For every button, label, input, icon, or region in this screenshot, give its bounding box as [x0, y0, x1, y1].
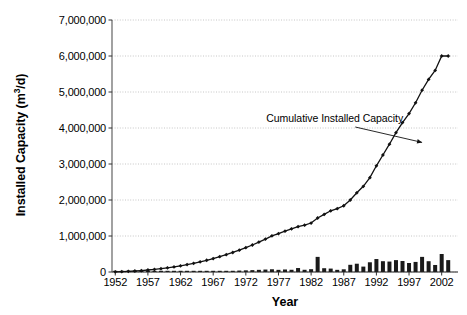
line-marker [120, 270, 124, 274]
line-marker [218, 255, 222, 259]
line-marker [446, 54, 450, 58]
axis-lines [112, 20, 458, 272]
x-axis-ticks [109, 20, 442, 276]
x-axis-tick-label: 1977 [267, 276, 291, 288]
x-axis-tick-label: 1982 [299, 276, 323, 288]
annotation-arrow [355, 127, 422, 143]
bar [361, 267, 365, 272]
bar [387, 262, 391, 272]
line-marker [211, 257, 215, 261]
x-axis-tick-label: 1967 [201, 276, 225, 288]
line-marker [244, 246, 248, 250]
bar [433, 265, 437, 272]
x-axis-tick-label: 1972 [234, 276, 258, 288]
x-axis-tick-label: 1962 [169, 276, 193, 288]
x-axis-tick-label: 1997 [397, 276, 421, 288]
line-marker [198, 260, 202, 264]
bar [414, 262, 418, 272]
bar [374, 259, 378, 272]
line-marker [303, 223, 307, 227]
line-marker [185, 263, 189, 267]
x-axis-tick-label: 1952 [103, 276, 127, 288]
bar-series [113, 254, 450, 272]
bar [427, 261, 431, 272]
chart-container: Installed Capacity (m3/d) 01,000,0002,00… [0, 0, 467, 315]
bar [316, 257, 320, 272]
chart-annotation-label: Cumulative Installed Capacity [266, 112, 403, 124]
bar [381, 261, 385, 272]
x-axis-tick-label: 1957 [136, 276, 160, 288]
line-marker [250, 243, 254, 247]
x-axis-title: Year [112, 295, 458, 309]
x-axis-tick-label: 1987 [332, 276, 356, 288]
line-marker [159, 267, 163, 271]
line-marker [296, 225, 300, 229]
x-axis-tick-label: 2002 [430, 276, 454, 288]
line-marker [166, 266, 170, 270]
line-marker [113, 270, 117, 274]
plot-svg [0, 0, 467, 315]
bar [420, 257, 424, 272]
line-marker [179, 264, 183, 268]
bar [394, 260, 398, 272]
line-marker [172, 265, 176, 269]
line-marker [290, 227, 294, 231]
line-marker [153, 268, 157, 272]
bar [368, 262, 372, 272]
bar [355, 264, 359, 272]
line-marker [237, 248, 241, 252]
bar [407, 263, 411, 272]
line-marker [335, 207, 339, 211]
bar [440, 254, 444, 272]
bar [446, 260, 450, 272]
line-marker [440, 54, 444, 58]
line-marker [277, 232, 281, 236]
annotation-arrow-line [355, 127, 422, 142]
bar [348, 265, 352, 272]
line-marker [205, 258, 209, 262]
annotation-arrow-head [417, 139, 422, 143]
x-axis-tick-label: 1992 [365, 276, 389, 288]
bar [401, 261, 405, 272]
line-marker [126, 269, 130, 273]
grid-lines [112, 20, 458, 272]
line-marker [224, 253, 228, 257]
line-marker [283, 229, 287, 233]
line-marker [192, 261, 196, 265]
line-marker [231, 251, 235, 255]
